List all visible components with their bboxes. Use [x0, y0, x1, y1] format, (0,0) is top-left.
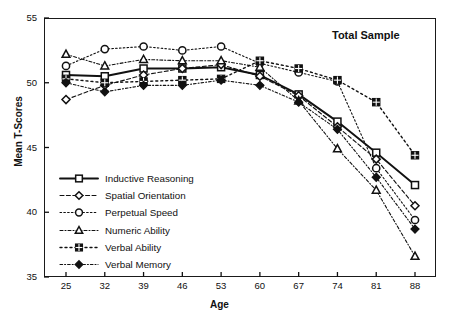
- legend-item[interactable]: Verbal Memory: [57, 256, 194, 273]
- legend-label: Verbal Ability: [105, 242, 161, 253]
- legend-marker-open-square-icon: [57, 170, 101, 187]
- legend-marker-filled-diamond-icon: [57, 256, 101, 273]
- legend-marker-open-circle-icon: [57, 204, 101, 221]
- legend-item[interactable]: Perpetual Speed: [57, 204, 194, 221]
- y-tick-label: 35: [11, 272, 37, 282]
- x-tick-label: 46: [167, 281, 197, 291]
- chart-legend: Inductive ReasoningSpatial OrientationPe…: [57, 170, 194, 273]
- legend-item[interactable]: Spatial Orientation: [57, 187, 194, 204]
- y-tick-label: 50: [11, 78, 37, 88]
- x-tick-label: 74: [322, 281, 352, 291]
- x-tick-label: 81: [361, 281, 391, 291]
- legend-label: Perpetual Speed: [105, 207, 178, 218]
- chart-figure: Total Sample Mean T-Scores Age 354045505…: [0, 0, 458, 327]
- legend-item[interactable]: Inductive Reasoning: [57, 170, 194, 187]
- x-tick-label: 25: [51, 281, 81, 291]
- x-tick-label: 53: [206, 281, 236, 291]
- legend-label: Spatial Orientation: [105, 190, 186, 201]
- y-tick-label: 45: [11, 143, 37, 153]
- x-tick-label: 60: [245, 281, 275, 291]
- x-tick-label: 88: [400, 281, 430, 291]
- y-axis-label: Mean T-Scores: [13, 92, 24, 172]
- x-tick-label: 32: [90, 281, 120, 291]
- legend-label: Numeric Ability: [105, 225, 170, 236]
- x-axis-label: Age: [210, 299, 229, 310]
- chart-title: Total Sample: [332, 29, 400, 41]
- x-tick-label: 39: [129, 281, 159, 291]
- legend-marker-open-triangle-icon: [57, 222, 101, 239]
- legend-label: Inductive Reasoning: [105, 173, 194, 184]
- x-tick-label: 67: [284, 281, 314, 291]
- legend-item[interactable]: Numeric Ability: [57, 222, 194, 239]
- legend-item[interactable]: Verbal Ability: [57, 239, 194, 256]
- legend-marker-filled-grid-square-icon: [57, 239, 101, 256]
- legend-label: Verbal Memory: [105, 259, 171, 270]
- y-tick-label: 40: [11, 207, 37, 217]
- legend-marker-open-diamond-icon: [57, 187, 101, 204]
- y-tick-label: 55: [11, 13, 37, 23]
